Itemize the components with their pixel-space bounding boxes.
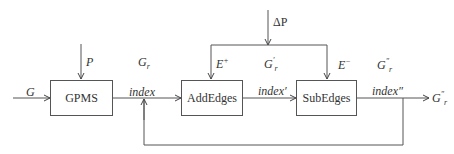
label-gr-prime: G′r [264, 57, 278, 73]
label-gr: Gr [138, 56, 150, 71]
label-gr-dprime: G″r [377, 58, 392, 74]
subedges-block: SubEdges [296, 80, 357, 116]
label-p: P [86, 56, 93, 68]
addedges-block: AddEdges [181, 80, 243, 116]
label-output: G″r [432, 91, 447, 107]
gpms-label: GPMS [65, 91, 98, 106]
label-delta-p: ΔP [273, 16, 287, 28]
gpms-block: GPMS [50, 80, 113, 116]
label-g: G [26, 86, 35, 98]
label-e-minus: E− [338, 58, 351, 71]
label-index: index [129, 86, 155, 98]
subedges-label: SubEdges [303, 91, 351, 106]
addedges-label: AddEdges [187, 91, 237, 106]
label-index-dprime: index″ [372, 85, 403, 97]
diagram-lines [0, 0, 454, 154]
label-index-prime: index′ [258, 85, 287, 97]
label-e-plus: E+ [216, 57, 229, 70]
